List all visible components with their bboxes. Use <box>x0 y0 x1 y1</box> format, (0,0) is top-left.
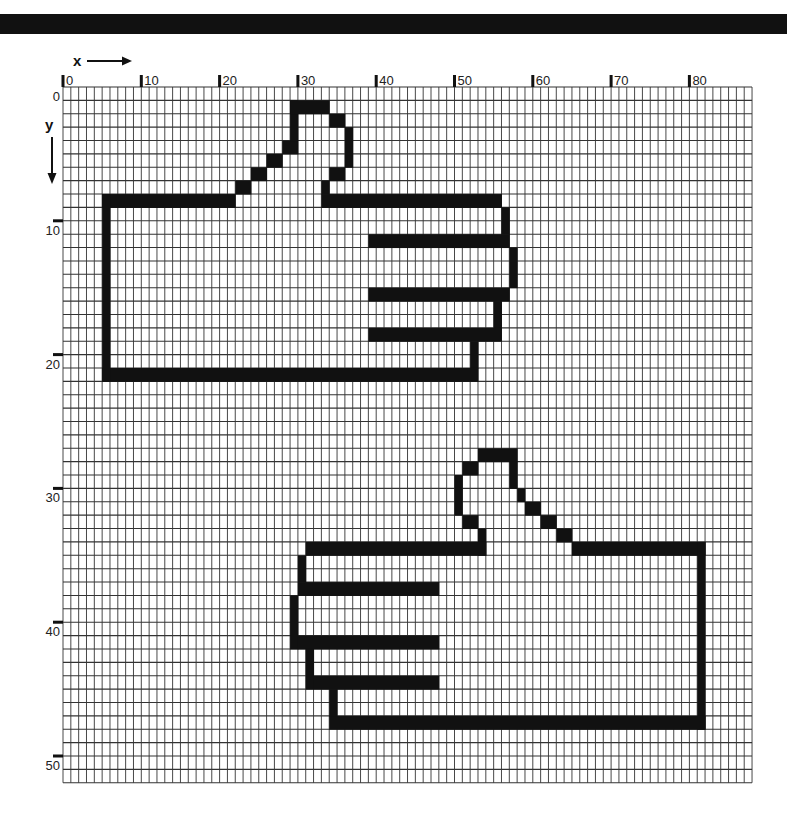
x-tick-mark <box>375 75 378 87</box>
y-tick-label: 0 <box>53 89 60 104</box>
y-axis-label: y <box>45 116 54 133</box>
y-tick-label: 40 <box>46 624 60 639</box>
x-tick-mark <box>531 75 534 87</box>
pixel-grid-figure: 0102030405060708001020304050 x y <box>0 0 787 820</box>
x-tick-label: 0 <box>66 73 73 88</box>
y-tick-label: 20 <box>46 357 60 372</box>
x-axis-label: x <box>73 52 82 69</box>
y-tick-label: 30 <box>46 490 60 505</box>
x-tick-mark <box>140 75 143 87</box>
x-tick-label: 70 <box>614 73 628 88</box>
y-axis-arrow-icon <box>48 137 57 184</box>
x-tick-label: 40 <box>379 73 393 88</box>
x-tick-label: 20 <box>223 73 237 88</box>
x-tick-mark <box>62 75 65 87</box>
x-tick-label: 10 <box>144 73 158 88</box>
x-tick-mark <box>218 75 221 87</box>
x-tick-mark <box>610 75 613 87</box>
x-tick-label: 80 <box>692 73 706 88</box>
y-tick-label: 10 <box>46 223 60 238</box>
x-tick-mark <box>296 75 299 87</box>
x-tick-mark <box>453 75 456 87</box>
x-axis-arrow-icon <box>87 57 132 66</box>
x-tick-mark <box>688 75 691 87</box>
x-tick-label: 60 <box>536 73 550 88</box>
x-tick-label: 30 <box>301 73 315 88</box>
y-tick-label: 50 <box>46 758 60 773</box>
x-tick-label: 50 <box>458 73 472 88</box>
